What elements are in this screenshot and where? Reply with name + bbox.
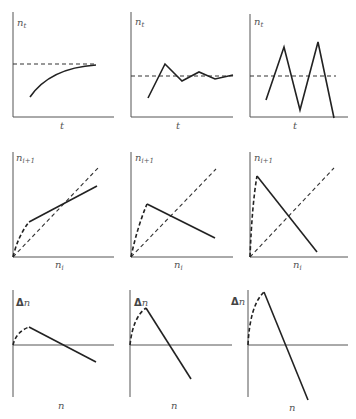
x-axis-label: n bbox=[289, 402, 295, 413]
recruitment-curve bbox=[29, 186, 97, 222]
x-axis-label: t bbox=[293, 120, 298, 131]
trajectory bbox=[148, 64, 233, 98]
replacement-line bbox=[13, 168, 98, 257]
rising-limb bbox=[131, 204, 147, 257]
x-axis-label: ni bbox=[293, 259, 302, 272]
x-axis-label: n bbox=[171, 400, 177, 411]
rising-limb bbox=[250, 176, 257, 257]
rising-limb bbox=[13, 327, 29, 345]
recruitment-curve bbox=[147, 204, 215, 238]
y-axis-label: Δn bbox=[16, 297, 30, 308]
panel-row1-col3: nt t bbox=[250, 14, 348, 131]
y-axis-label: Δn bbox=[231, 296, 245, 307]
y-axis-label: ni+1 bbox=[16, 152, 35, 165]
change-curve bbox=[146, 308, 191, 379]
panel-row3-col1: Δn n bbox=[13, 290, 114, 411]
population-dynamics-diagram: nt t nt t nt t ni+1 ni ni+1 ni bbox=[0, 0, 356, 419]
trajectory bbox=[266, 42, 334, 118]
y-axis-label: nt bbox=[17, 17, 26, 30]
change-curve bbox=[264, 292, 308, 400]
y-axis-label: nt bbox=[254, 16, 263, 29]
y-axis-label: Δn bbox=[134, 297, 148, 308]
rising-limb bbox=[248, 292, 264, 345]
rising-limb bbox=[13, 222, 29, 257]
x-axis-label: t bbox=[176, 120, 181, 131]
y-axis-label: nt bbox=[135, 16, 144, 29]
y-axis-label: ni+1 bbox=[135, 152, 154, 165]
panel-row3-col2: Δn n bbox=[130, 290, 232, 411]
panel-row3-col3: Δn n bbox=[231, 290, 348, 413]
x-axis-label: ni bbox=[55, 259, 64, 272]
trajectory bbox=[30, 65, 96, 97]
panel-row1-col2: nt t bbox=[131, 12, 233, 131]
y-axis-label: ni+1 bbox=[254, 152, 273, 165]
x-axis-label: t bbox=[60, 120, 65, 131]
replacement-line bbox=[250, 168, 334, 257]
panel-row2-col1: ni+1 ni bbox=[13, 152, 114, 272]
panel-row1-col1: nt t bbox=[13, 12, 114, 131]
rising-limb bbox=[130, 308, 146, 345]
x-axis-label: ni bbox=[174, 259, 183, 272]
x-axis-label: n bbox=[58, 400, 64, 411]
panel-row2-col2: ni+1 ni bbox=[131, 152, 233, 272]
panel-row2-col3: ni+1 ni bbox=[250, 152, 348, 272]
